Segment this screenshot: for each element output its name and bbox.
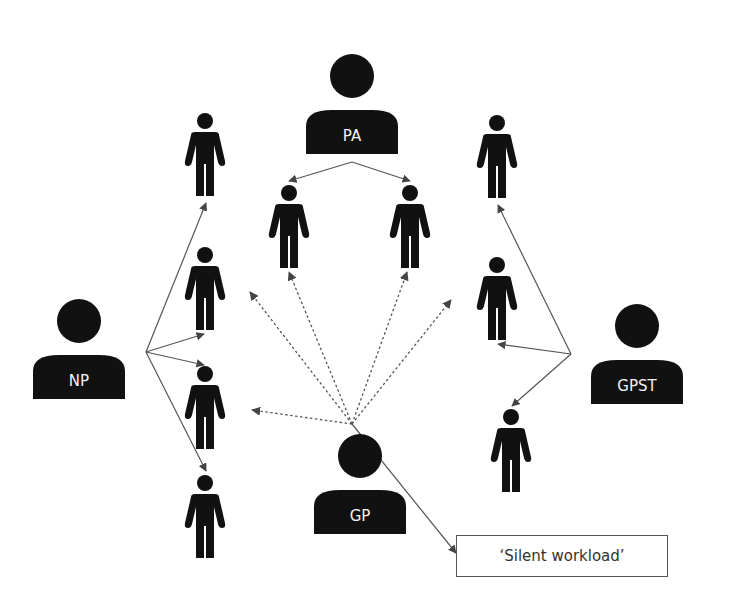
patient-figure-icon [185,247,225,330]
role-label-np: NP [69,372,89,390]
arrow-np-4 [146,352,204,365]
dotted-arrow-gp-13 [252,410,352,424]
arrow-pa-1 [352,162,410,181]
patient-figure-icon [185,113,225,196]
role-label-gpst: GPST [617,377,657,395]
arrow-np-3 [146,334,204,352]
silent-workload-label: ‘Silent workload’ [499,547,624,565]
patient-figure-icon [390,185,430,268]
roles-layer: PANPGPSTGP [33,54,683,534]
silent-workload-box: ‘Silent workload’ [456,535,668,577]
role-gp-icon: GP [314,434,406,534]
patient-figure-icon [185,475,225,558]
patient-figure-icon [185,366,225,449]
role-np-icon: NP [33,299,125,399]
patient-figure-icon [477,115,517,198]
dotted-arrow-gp-10 [289,272,352,424]
dotted-arrow-gp-11 [352,272,407,424]
role-pa-icon: PA [306,54,398,154]
patient-figure-icon [477,257,517,340]
role-gpst-icon: GPST [591,304,683,404]
arrow-gpst-8 [512,354,571,406]
role-label-pa: PA [343,127,362,145]
care-team-diagram: PANPGPSTGP [0,0,750,609]
patient-figure-icon [269,185,309,268]
arrow-pa-0 [289,162,352,181]
role-label-gp: GP [350,507,371,525]
dotted-arrow-gp-9 [250,292,352,424]
arrow-gpst-7 [498,344,571,354]
patient-figure-icon [491,409,531,492]
dotted-arrow-gp-12 [352,300,451,424]
